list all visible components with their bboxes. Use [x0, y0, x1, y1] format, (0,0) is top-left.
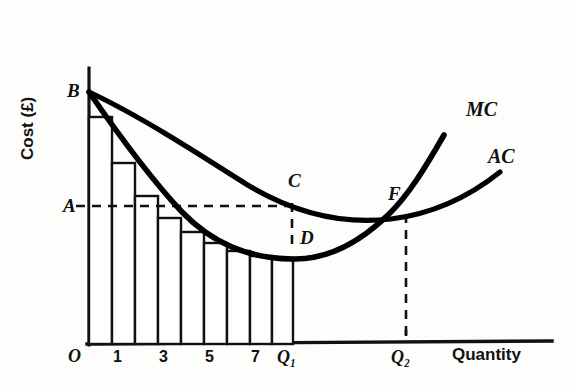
x-tick-label-5: 5 — [205, 348, 214, 365]
cost-curves-chart: Cost (£) Quantity O 1 3 5 7 Q₁ Q₂ B A C … — [0, 0, 570, 390]
step-bar — [250, 256, 272, 344]
step-bar — [204, 243, 227, 344]
x-tick-label-3: 3 — [159, 348, 168, 365]
point-label-D: D — [299, 227, 314, 248]
step-bar — [112, 163, 135, 344]
step-bar — [227, 251, 250, 344]
x-tick-label-q1: Q₁ — [277, 347, 296, 367]
step-bar — [89, 117, 112, 344]
step-bar — [158, 218, 181, 344]
step-bar — [181, 232, 204, 344]
point-label-A: A — [62, 195, 76, 216]
point-label-C: C — [288, 170, 301, 191]
x-tick-label-q2: Q₂ — [391, 347, 410, 367]
point-label-F: F — [387, 183, 401, 204]
y-axis-title: Cost (£) — [18, 97, 37, 160]
x-axis-title: Quantity — [452, 345, 521, 364]
step-bar — [135, 196, 158, 344]
point-label-B: B — [66, 80, 80, 101]
curve-label-ac: AC — [486, 145, 515, 167]
curve-label-mc: MC — [465, 98, 498, 120]
step-bar — [272, 258, 293, 344]
x-tick-label-7: 7 — [251, 348, 260, 365]
x-tick-label-1: 1 — [113, 348, 122, 365]
origin-label: O — [68, 346, 81, 366]
